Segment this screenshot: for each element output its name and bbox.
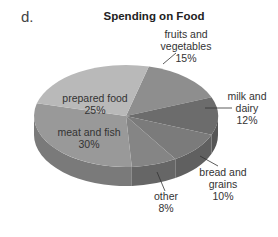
slice-label: milk anddairy12% <box>227 90 266 126</box>
pie-chart: fruits andvegetables15%milk anddairy12%b… <box>0 0 278 237</box>
slice-label: fruits andvegetables15% <box>161 28 212 64</box>
slice-label: bread andgrains10% <box>199 166 246 202</box>
leader-line <box>163 53 176 64</box>
slice-label: other8% <box>154 190 178 214</box>
